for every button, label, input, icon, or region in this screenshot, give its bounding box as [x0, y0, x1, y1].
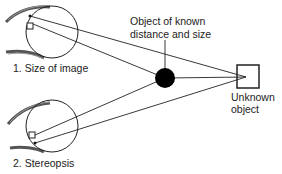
- known-object-icon: [155, 68, 175, 88]
- known-object-label-2: distance and size: [130, 28, 211, 40]
- eye-2-label: 2. Stereopsis: [13, 157, 74, 169]
- eye-2-icon: [8, 100, 78, 152]
- depth-perception-diagram: 1. Size of image 2. Stereopsis Object of…: [0, 0, 282, 174]
- unknown-object-label-1: Unknown: [231, 91, 275, 103]
- known-object-label-1: Object of known: [130, 15, 205, 27]
- unknown-object-icon: [237, 65, 259, 88]
- unknown-object-label-2: object: [231, 103, 259, 115]
- eye-1-icon: [6, 6, 78, 59]
- eye-1-label: 1. Size of image: [13, 62, 88, 74]
